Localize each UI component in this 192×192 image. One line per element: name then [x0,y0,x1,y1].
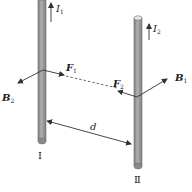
rod-ii [134,16,142,169]
force-f2-label: F2 [112,78,124,90]
rod-ii-label: Ⅱ [134,174,141,185]
rod-i-label: Ⅰ [38,150,42,161]
distance-d-label: d [90,121,96,132]
dashed-connector [66,76,117,88]
field-b1-label: B1 [174,72,187,84]
field-b2-label: B2 [1,92,14,104]
parallel-wires-diagram: I1 I2 F1 F2 B2 B1 d Ⅰ Ⅱ [0,0,192,192]
force-f1-label: F1 [65,62,77,74]
current-i1-label: I1 [55,3,64,15]
current-i2-label: I2 [152,23,161,35]
